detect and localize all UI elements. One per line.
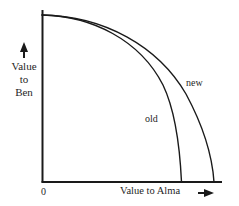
y-axis-label: Value to Ben (2, 60, 46, 99)
curve-new (42, 15, 214, 182)
y-axis-label-line2: to (2, 73, 46, 86)
x-axis-label: Value to Alma (120, 186, 180, 197)
curve-old (42, 15, 182, 182)
curve-label-new: new (186, 78, 203, 88)
y-axis-label-line3: Ben (2, 86, 46, 99)
curve-label-old: old (145, 114, 158, 124)
utility-possibility-frontier-figure: Value to Ben Value to Alma 0 new old (0, 0, 239, 206)
y-axis-label-line1: Value (2, 60, 46, 73)
up-arrow-icon (20, 42, 28, 58)
origin-label: 0 (41, 187, 46, 197)
right-arrow-icon (198, 189, 214, 197)
plot-area (0, 0, 239, 206)
